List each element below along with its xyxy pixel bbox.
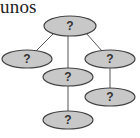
node-label: ? <box>64 70 71 84</box>
node-label: ? <box>64 113 71 127</box>
edge-root-left <box>36 33 54 51</box>
node-label: ? <box>66 19 73 33</box>
node-label: ? <box>106 52 113 66</box>
tree-node-right-child: ? <box>85 88 135 106</box>
tree-node-right: ? <box>85 50 135 68</box>
tree-node-root: ? <box>44 16 96 36</box>
tree-node-left: ? <box>2 50 52 68</box>
edge-root-right <box>86 33 102 51</box>
tree-diagram: ?????? <box>0 0 140 138</box>
nodes: ?????? <box>2 16 135 129</box>
tree-node-middle-child: ? <box>43 111 93 129</box>
node-label: ? <box>23 52 30 66</box>
node-label: ? <box>106 90 113 104</box>
tree-node-middle: ? <box>43 68 93 86</box>
